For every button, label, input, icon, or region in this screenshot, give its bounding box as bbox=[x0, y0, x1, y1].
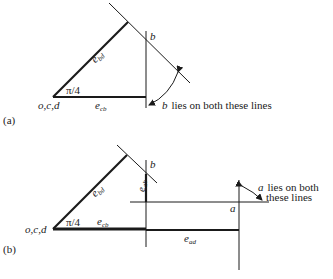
origin-label-b: o,c,d bbox=[25, 223, 47, 235]
point-b-label-a: b bbox=[150, 30, 156, 42]
origin-label-a: o,c,d bbox=[38, 99, 60, 111]
e-ab-label-b: eab bbox=[135, 180, 149, 192]
panel-label-a: (a) bbox=[3, 114, 16, 127]
panel-label-b: (b) bbox=[3, 243, 16, 256]
diagram-b: b eab ebd π/4 ecb o,c,d (b) a ead alies … bbox=[3, 145, 319, 270]
perpendicular-line-a bbox=[109, 3, 190, 83]
e-cb-label-a: ecb bbox=[95, 99, 107, 113]
angle-label-b: π/4 bbox=[66, 216, 81, 228]
e-bd-label-a: ebd bbox=[88, 48, 107, 67]
e-ad-label-b: ead bbox=[184, 232, 196, 246]
angle-label-a: π/4 bbox=[66, 84, 81, 96]
point-a-label-b: a bbox=[230, 202, 236, 214]
point-b-label-b: b bbox=[150, 158, 156, 170]
note-b-line2: these lines bbox=[266, 191, 312, 203]
diagram-a: b ebd π/4 o,c,d ecb (a) blies on both th… bbox=[3, 3, 272, 127]
note-a: blies on both these lines bbox=[162, 99, 272, 111]
strain-diagram: b ebd π/4 o,c,d ecb (a) blies on both th… bbox=[0, 0, 333, 279]
e-cb-label-b: ecb bbox=[97, 215, 109, 229]
